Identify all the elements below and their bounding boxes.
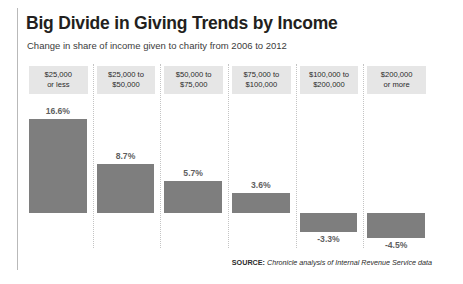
bar-wrapper: 5.7% — [164, 62, 222, 250]
bar — [164, 181, 222, 213]
bar-value-label: 3.6% — [232, 180, 290, 190]
bar — [367, 213, 425, 238]
chart-column: $25,000or less16.6% — [26, 62, 94, 250]
bar — [29, 119, 87, 213]
chart-column: $100,000 to$200,000-3.3% — [297, 62, 365, 250]
bar-value-label: 5.7% — [164, 168, 222, 178]
bar — [300, 213, 358, 232]
bar — [232, 193, 290, 213]
bar-wrapper: -4.5% — [367, 62, 425, 250]
bar-value-label: 16.6% — [29, 106, 87, 116]
chart-column: $75,000 to$100,0003.6% — [229, 62, 297, 250]
source-label: SOURCE: — [232, 258, 265, 267]
chart-subtitle: Change in share of income given to chari… — [27, 40, 287, 51]
chart-column: $200,000or more-4.5% — [364, 62, 432, 250]
chart-column: $25,000 to$50,0008.7% — [94, 62, 162, 250]
source-note: SOURCE: Chronicle analysis of Internal R… — [232, 258, 432, 267]
plot-area: $25,000or less16.6%$25,000 to$50,0008.7%… — [26, 62, 432, 250]
bar-value-label: -4.5% — [367, 240, 425, 250]
bar-wrapper: 16.6% — [29, 62, 87, 250]
bar-wrapper: 3.6% — [232, 62, 290, 250]
source-text: Chronicle analysis of Internal Revenue S… — [265, 258, 432, 267]
chart-title: Big Divide in Giving Trends by Income — [26, 13, 338, 34]
bar-wrapper: -3.3% — [300, 62, 358, 250]
chart-column: $50,000 to$75,0005.7% — [161, 62, 229, 250]
bar-value-label: 8.7% — [97, 151, 155, 161]
left-vertical-rule — [17, 8, 18, 270]
bar — [97, 164, 155, 213]
bar-value-label: -3.3% — [300, 234, 358, 244]
chart-graphic: Big Divide in Giving Trends by Income Ch… — [0, 0, 463, 284]
bar-wrapper: 8.7% — [97, 62, 155, 250]
